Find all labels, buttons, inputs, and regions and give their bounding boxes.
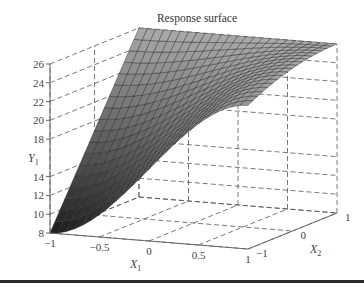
y-tick-label: 14 — [33, 171, 45, 183]
x2-tick-label: 0 — [301, 229, 307, 241]
x1-tick-label: 1 — [245, 253, 251, 265]
chart-title: Response surface — [157, 12, 237, 25]
y-tick-label: 10 — [33, 208, 45, 220]
x1-tick-label: −0.5 — [90, 241, 110, 253]
y-tick-label: 24 — [33, 77, 45, 89]
bottom-separator — [0, 280, 364, 283]
y-tick-label: 20 — [33, 114, 45, 126]
response-surface-chart: Response surface 81012141820222426−1−0.5… — [0, 0, 364, 289]
y-axis-label: Y1 — [28, 151, 39, 167]
x2-tick-label: 1 — [345, 211, 351, 223]
x1-tick-label: 0 — [146, 245, 152, 257]
y-tick-label: 12 — [33, 189, 44, 201]
x1-axis-label: X1 — [129, 257, 141, 273]
x1-tick-label: 0.5 — [192, 249, 206, 261]
y-tick-label: 22 — [33, 96, 44, 108]
surface-mesh — [50, 28, 337, 233]
x2-tick-label: −1 — [256, 247, 268, 259]
y-tick-label: 18 — [33, 133, 45, 145]
x2-axis-label: X2 — [309, 242, 321, 258]
x1-tick-label: −1 — [44, 237, 56, 249]
y-tick-label: 26 — [33, 58, 45, 70]
